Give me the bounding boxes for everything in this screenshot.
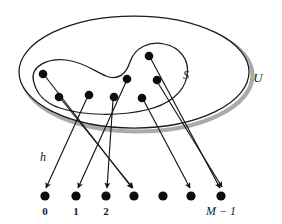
key-dot bbox=[153, 76, 162, 85]
key-dot bbox=[39, 70, 48, 79]
slot-dot bbox=[129, 191, 138, 200]
subset-label: S bbox=[183, 68, 189, 82]
slot-dot bbox=[158, 191, 167, 200]
slot-dot bbox=[101, 191, 110, 200]
universe-label: U bbox=[253, 70, 264, 85]
key-dot bbox=[110, 93, 119, 102]
slot-label-last: M − 1 bbox=[205, 204, 236, 218]
key-dot bbox=[55, 93, 64, 102]
slot-dot bbox=[40, 191, 49, 200]
key-dot bbox=[145, 52, 154, 61]
key-dot bbox=[85, 91, 94, 100]
slot-label-2: 2 bbox=[103, 205, 109, 217]
slot-dot bbox=[71, 191, 80, 200]
function-label: h bbox=[40, 150, 46, 164]
slot-dot bbox=[216, 191, 225, 200]
slot-dots bbox=[40, 191, 225, 200]
hash-function-diagram: U S h 0 1 2 M − 1 bbox=[0, 0, 282, 224]
slot-label-1: 1 bbox=[73, 205, 79, 217]
slot-label-0: 0 bbox=[42, 205, 48, 217]
key-dot bbox=[138, 94, 147, 103]
key-dot bbox=[123, 75, 132, 84]
slot-dot bbox=[186, 191, 195, 200]
